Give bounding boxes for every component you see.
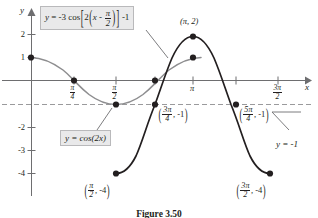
main-eq-inner-coef: 2: [84, 12, 89, 22]
main-eq-vshift: -1: [122, 12, 130, 22]
x-tick-pi-over-2-num: π: [112, 84, 118, 92]
right-min-yval: -4: [255, 185, 262, 195]
right-midline-point-label: (5π4, -1): [239, 106, 269, 123]
x-tick-pi-over-4-num: π: [70, 84, 76, 92]
point-pi-1: [190, 54, 196, 60]
left-midline-point-label: (3π4, -1): [158, 106, 188, 123]
max-point-label: (π, 2): [180, 16, 198, 26]
left-midline-yval: -1: [177, 109, 184, 119]
asymptote-label: y = -1: [276, 139, 298, 149]
x-tick-3pi-over-2-num: 3π: [273, 84, 283, 92]
x-tick-3pi-over-2: 3π 2: [272, 84, 283, 100]
left-midline-den: 4: [162, 114, 172, 123]
right-min-num: 3π: [240, 182, 250, 190]
left-min-den: 2: [88, 190, 94, 199]
left-min-point-label: (π2, -4): [84, 182, 110, 199]
y-tick-1: 1: [14, 53, 25, 62]
y-tick-neg2: -2: [11, 123, 25, 132]
main-eq-inner-minus: -: [99, 12, 102, 22]
point-3pi2-neg4: [267, 170, 273, 176]
data-points: [28, 33, 273, 176]
x-tick-pi-over-2: π 2: [111, 84, 118, 100]
right-min-den: 2: [240, 190, 250, 199]
x-tick-pi-over-4: π 4: [69, 84, 76, 100]
y-tick-neg3: -3: [11, 146, 25, 155]
right-min-point-label: (3π2, -4): [236, 182, 266, 199]
left-min-yval: -4: [99, 185, 106, 195]
right-midline-den: 4: [243, 114, 253, 123]
secondary-eq-text: y = cos(2x): [65, 133, 106, 143]
main-eq-amplitude: -3: [59, 12, 67, 22]
right-midline-num: 5π: [243, 106, 253, 114]
figure-caption: Figure 3.50: [0, 209, 318, 218]
x-tick-pi-over-4-den: 4: [70, 92, 76, 101]
secondary-equation-label: y = cos(2x): [60, 130, 111, 146]
point-pi2-neg1: [113, 101, 119, 107]
point-0-1: [28, 54, 34, 60]
leader-main-equation: [146, 30, 168, 58]
y-tick-neg4: -4: [11, 169, 25, 178]
main-eq-lhs: y: [45, 12, 49, 22]
main-eq-inner-var: x: [93, 12, 97, 22]
y-axis-label: y: [20, 6, 24, 15]
point-pi2-neg4: [113, 170, 119, 176]
main-eq-phase-num: π: [105, 9, 111, 18]
left-min-num: π: [88, 182, 94, 190]
main-equation-label: y = -3 cos[2(x - π 2 )] -1: [40, 6, 134, 30]
leader-secondary-equation: [97, 108, 112, 130]
y-tick-2: 2: [14, 30, 25, 39]
right-midline-yval: -1: [258, 109, 265, 119]
main-eq-phase-den: 2: [105, 18, 111, 28]
leader-asymptote: [272, 112, 301, 130]
x-tick-3pi-over-2-den: 2: [273, 92, 283, 101]
main-eq-equals: =: [51, 12, 56, 22]
left-midline-num: 3π: [162, 106, 172, 114]
x-axis-label: x: [305, 83, 309, 92]
point-3pi4-0: [152, 77, 158, 83]
x-tick-pi-over-2-den: 2: [112, 92, 118, 101]
point-pi-2: [190, 33, 196, 39]
x-tick-pi: π: [190, 84, 194, 93]
y-axis: [28, 8, 36, 196]
figure-container: y x 2 1 -2 -3 -4 π 4 π 2 π 3π 2 y = -3 c…: [0, 0, 318, 218]
main-eq-func: cos: [68, 12, 80, 22]
